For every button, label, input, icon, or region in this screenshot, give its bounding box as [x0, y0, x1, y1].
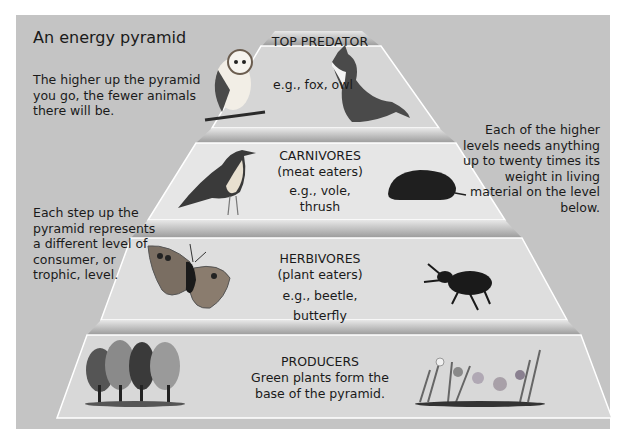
label-carnivores-group: CARNIVORES (meat eaters) e.g., vole, thr… — [255, 148, 385, 215]
note-twenty-times: Each of the higher levels needs anything… — [458, 122, 600, 215]
note-trophic-level: Each step up the pyramid represents a di… — [33, 205, 163, 283]
label-carnivores: CARNIVORES — [255, 148, 385, 164]
label-producers-group: PRODUCERS Green plants form the base of … — [240, 354, 400, 402]
label-herbivores-group: HERBIVORES (plant eaters) e.g., beetle, … — [255, 251, 385, 326]
label-producers: PRODUCERS — [240, 354, 400, 370]
subtitle-herbivores: (plant eaters) — [255, 267, 385, 283]
subtitle-carnivores: (meat eaters) — [255, 164, 385, 180]
subtitle-producers: Green plants form the base of the pyrami… — [240, 370, 400, 402]
label-herbivores: HERBIVORES — [255, 251, 385, 267]
examples-carnivores: e.g., vole, thrush — [280, 183, 360, 215]
examples-top-predator: e.g., fox, owl — [268, 77, 358, 93]
examples-herbivores: e.g., beetle, butterfly — [275, 286, 365, 326]
note-fewer-animals: The higher up the pyramid you go, the fe… — [33, 72, 203, 119]
label-top-predator: TOP PREDATOR — [255, 34, 385, 50]
diagram-title: An energy pyramid — [33, 28, 186, 47]
